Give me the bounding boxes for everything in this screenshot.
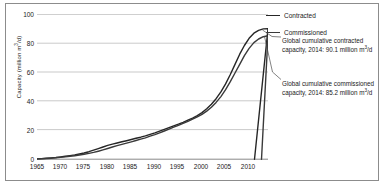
annotation-line-2: capacity, 2014: 90.1 million m3/d [282,45,378,54]
annotation-line-2-pre: capacity, 2014: 90.1 million m [282,46,364,53]
x-axis-tick-labels: 1965 1970 1975 1980 1985 1990 1995 2000 … [0,163,385,175]
legend-label: Contracted [284,10,316,21]
annotation-line-2-pre: capacity, 2014: 85.2 million m [282,89,364,96]
y-tick-label: 40 [8,98,34,105]
plot-svg [37,14,268,160]
annotation-line-2: capacity, 2014: 85.2 million m3/d [282,88,378,97]
y-tick-label: 80 [8,40,34,47]
series-line-contracted-main [37,29,268,159]
annotation-contracted: Global cumulative contracted capacity, 2… [282,36,378,54]
x-tick-label: 2010 [233,163,263,171]
legend-line-icon [266,15,280,16]
series-line-commissioned-main [37,36,268,159]
chart-figure: Capacity (million m3/d) 100 80 60 40 20 … [0,0,385,185]
annotation-line-1: Global cumulative contracted [282,36,378,45]
legend-line-icon [266,32,280,33]
y-tick-label: 60 [8,69,34,76]
legend-item-contracted: Contracted [266,10,378,22]
y-tick-label: 0 [8,156,34,163]
y-axis-tick-labels: 100 80 60 40 20 0 [4,0,34,185]
annotation-commissioned: Global cumulative commissioned capacity,… [282,79,378,97]
gridlines [37,14,268,129]
y-tick-label: 100 [8,11,34,18]
plot-area [37,14,268,160]
annotation-line-2-post: /d [367,46,372,53]
annotation-line-2-post: /d [367,89,372,96]
y-tick-label: 20 [8,127,34,134]
series-end-drop-contracted [255,29,269,160]
annotation-line-1: Global cumulative commissioned [282,79,378,88]
